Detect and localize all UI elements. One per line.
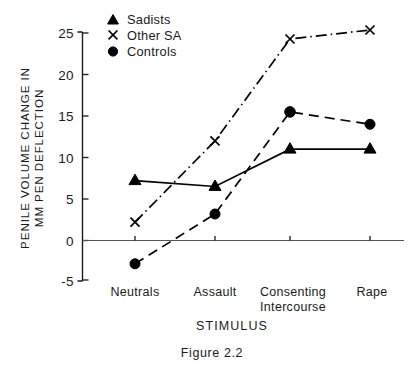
- x-tick-label-assault: Assault: [193, 285, 236, 299]
- y-tick-label-25: 25: [58, 26, 74, 41]
- y-axis-title: PENILE VOLUME CHANGE IN MM PEN DEFLECTIO…: [18, 67, 45, 249]
- x-tick-label-intercourse: Intercourse: [260, 300, 326, 314]
- cross-marker-icon: [109, 31, 118, 40]
- y-tick-label-minus5: -5: [61, 274, 74, 289]
- marker-sadists-neutrals: [129, 174, 141, 184]
- legend-label-controls: Controls: [127, 44, 177, 59]
- x-tick-label-consenting: Consenting: [260, 285, 326, 299]
- marker-other-sa-neutrals: [131, 218, 140, 227]
- y-tick-label-20: 20: [58, 68, 74, 83]
- y-tick-label-10: 10: [58, 151, 74, 166]
- marker-controls-assault: [210, 209, 220, 219]
- y-axis-spine: [78, 32, 83, 281]
- legend-label-other-sa: Other SA: [127, 28, 182, 43]
- figure-caption: Figure 2.2: [181, 346, 243, 360]
- triangle-marker-icon: [108, 15, 119, 25]
- marker-controls-consenting-intercourse: [285, 107, 296, 118]
- line-chart: 25 20 15 10 5 0 -5: [0, 0, 412, 365]
- x-axis-title: STIMULUS: [196, 319, 268, 333]
- marker-other-sa-assault: [211, 136, 220, 145]
- legend: Sadists Other SA Controls: [108, 12, 182, 59]
- marker-controls-neutrals: [130, 259, 140, 269]
- y-axis-title-line2: MM PEN DEFLECTION: [32, 89, 45, 227]
- x-tick-label-neutrals: Neutrals: [111, 285, 160, 299]
- circle-marker-icon: [108, 47, 117, 56]
- axis-spines: [78, 32, 83, 281]
- series-controls: [130, 107, 375, 269]
- marker-controls-rape: [365, 119, 375, 129]
- y-axis-tick-labels: 25 20 15 10 5 0 -5: [58, 26, 74, 289]
- marker-other-sa-consenting-intercourse: [286, 35, 295, 44]
- marker-sadists-rape: [364, 143, 376, 153]
- marker-sadists-consenting-intercourse: [284, 143, 296, 153]
- legend-label-sadists: Sadists: [127, 12, 171, 27]
- y-tick-label-5: 5: [66, 192, 74, 207]
- series-line-sadists: [135, 149, 370, 186]
- y-tick-label-15: 15: [58, 109, 74, 124]
- series-sadists: [129, 143, 376, 191]
- zero-reference-line-group: [83, 236, 405, 241]
- x-tick-label-rape: Rape: [356, 285, 387, 299]
- x-axis-tick-labels: Neutrals Assault Consenting Intercourse …: [111, 285, 388, 314]
- y-axis-title-line1: PENILE VOLUME CHANGE IN: [18, 67, 31, 249]
- y-tick-label-0: 0: [66, 234, 74, 249]
- figure-container: 25 20 15 10 5 0 -5: [0, 0, 412, 365]
- y-axis-ticks: [83, 33, 89, 280]
